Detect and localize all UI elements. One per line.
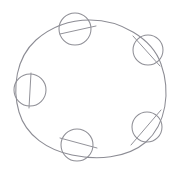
node-lower-right-tick xyxy=(131,110,161,145)
node-top xyxy=(59,13,96,45)
sketch-canvas xyxy=(0,0,176,174)
node-top-circle xyxy=(59,13,91,45)
node-left xyxy=(14,73,46,108)
node-bottom-tick xyxy=(60,138,97,148)
node-upper-right-circle xyxy=(133,35,163,65)
node-upper-right-tick xyxy=(133,36,160,66)
node-upper-right xyxy=(133,35,163,66)
node-left-tick xyxy=(29,73,31,108)
ring-diagram xyxy=(0,0,176,174)
